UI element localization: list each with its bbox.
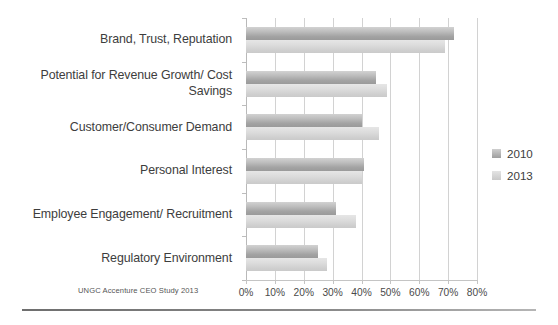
- category-axis-labels: Brand, Trust, Reputation Potential for R…: [4, 18, 240, 280]
- source-note: UNGC Accenture CEO Study 2013: [78, 286, 198, 295]
- legend-item-2013[interactable]: 2013: [492, 164, 554, 186]
- category-label: Potential for Revenue Growth/ Cost Savin…: [4, 62, 240, 106]
- bar-2010[interactable]: [246, 158, 364, 171]
- value-axis-tick: [419, 280, 420, 284]
- category-label: Brand, Trust, Reputation: [4, 18, 240, 62]
- bar-group: [246, 105, 477, 149]
- bar-chart: Brand, Trust, Reputation Potential for R…: [0, 0, 558, 325]
- bar-2010[interactable]: [246, 202, 336, 215]
- value-axis-tick-label: 60%: [409, 287, 429, 298]
- category-label: Employee Engagement/ Recruitment: [4, 193, 240, 237]
- value-axis-tick: [390, 280, 391, 284]
- bar-2013[interactable]: [246, 215, 356, 228]
- value-axis-tick-label: 20%: [294, 287, 314, 298]
- plot-area: [246, 18, 477, 280]
- value-axis-tick: [362, 280, 363, 284]
- bar-rows: [246, 18, 477, 280]
- value-axis-tick: [333, 280, 334, 284]
- gridline: [477, 18, 478, 280]
- bar-group: [246, 18, 477, 62]
- legend-label: 2010: [507, 147, 533, 160]
- value-axis-tick: [304, 280, 305, 284]
- category-label: Regulatory Environment: [4, 236, 240, 280]
- value-axis-tick-label: 50%: [380, 287, 400, 298]
- bar-2010[interactable]: [246, 71, 376, 84]
- bar-group: [246, 236, 477, 280]
- bar-group: [246, 62, 477, 106]
- category-label: Personal Interest: [4, 149, 240, 193]
- bar-2010[interactable]: [246, 27, 454, 40]
- value-axis-tick: [477, 280, 478, 284]
- value-axis-tick-label: 80%: [467, 287, 487, 298]
- legend: 2010 2013: [492, 142, 554, 186]
- value-axis-tick: [448, 280, 449, 284]
- value-axis: [246, 280, 477, 286]
- value-axis-labels: 0%10%20%30%40%50%60%70%80%: [246, 287, 477, 303]
- bar-2010[interactable]: [246, 245, 318, 258]
- value-axis-tick-label: 70%: [438, 287, 458, 298]
- value-axis-tick-label: 0%: [239, 287, 254, 298]
- bar-group: [246, 149, 477, 193]
- bar-group: [246, 193, 477, 237]
- value-axis-tick-label: 40%: [351, 287, 371, 298]
- bar-2013[interactable]: [246, 40, 445, 53]
- bar-2013[interactable]: [246, 171, 362, 184]
- bottom-divider: [22, 309, 536, 311]
- bar-2010[interactable]: [246, 114, 362, 127]
- legend-label: 2013: [507, 169, 533, 182]
- category-label: Customer/Consumer Demand: [4, 105, 240, 149]
- value-axis-tick: [246, 280, 247, 284]
- value-axis-tick: [275, 280, 276, 284]
- legend-swatch-icon: [492, 171, 501, 180]
- value-axis-tick-label: 10%: [265, 287, 285, 298]
- legend-swatch-icon: [492, 149, 501, 158]
- bar-2013[interactable]: [246, 127, 379, 140]
- legend-item-2010[interactable]: 2010: [492, 142, 554, 164]
- bar-2013[interactable]: [246, 84, 387, 97]
- value-axis-tick-label: 30%: [322, 287, 342, 298]
- bar-2013[interactable]: [246, 258, 327, 271]
